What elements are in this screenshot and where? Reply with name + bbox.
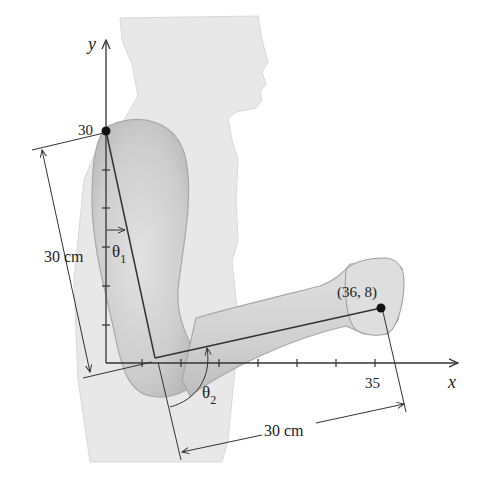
y-axis-label: y: [86, 34, 96, 54]
x-axis-label: x: [447, 372, 456, 392]
arm-diagram: y x 35 30 (36, 8) θ1 θ2 30 cm: [0, 0, 492, 480]
forearm-length-label: 30 cm: [264, 422, 304, 439]
hand-point: [377, 304, 386, 313]
upper-arm-length-label: 30 cm: [44, 248, 84, 265]
upper-arm-extension-top: [32, 133, 104, 150]
shoulder-label: 30: [78, 122, 93, 138]
shoulder-point: [102, 127, 111, 136]
forearm-dimension-line-right: [316, 404, 404, 423]
hand-label: (36, 8): [337, 284, 377, 301]
x-tick-label-35: 35: [365, 375, 380, 391]
forearm-extension-hand: [383, 312, 406, 412]
